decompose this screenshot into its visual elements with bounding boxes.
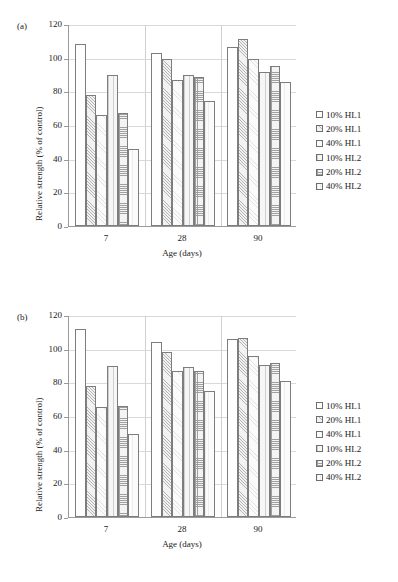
bar — [151, 53, 162, 226]
bar — [128, 149, 139, 226]
y-tick-label: 0 — [32, 222, 62, 231]
y-tick-label: 20 — [32, 479, 62, 488]
bar — [75, 44, 86, 226]
legend-item: 10% HL1 — [316, 109, 361, 120]
legend-swatch-icon — [316, 169, 323, 176]
legend-swatch-icon — [316, 460, 323, 467]
y-tick-mark — [64, 126, 68, 127]
y-tick-label: 60 — [32, 121, 62, 130]
y-tick-mark — [64, 484, 68, 485]
bar — [118, 406, 129, 517]
y-tick-mark — [64, 193, 68, 194]
legend-swatch-icon — [316, 402, 323, 409]
y-tick-mark — [64, 518, 68, 519]
legend-item: 20% HL1 — [316, 414, 361, 425]
bar — [194, 77, 205, 226]
legend-swatch-icon — [316, 474, 323, 481]
bar — [107, 75, 118, 227]
bar — [270, 363, 281, 517]
group-separator — [221, 316, 222, 517]
legend-item: 40% HL2 — [316, 472, 361, 483]
legend-item: 10% HL2 — [316, 152, 361, 163]
y-tick-label: 40 — [32, 155, 62, 164]
bar — [107, 366, 118, 517]
legend-swatch-icon — [316, 445, 323, 452]
bar — [248, 356, 259, 517]
y-tick-mark — [64, 383, 68, 384]
legend-a: 10% HL120% HL140% HL110% HL220% HL240% H… — [316, 109, 361, 195]
bar — [86, 386, 97, 517]
y-tick-mark — [64, 227, 68, 228]
bar — [96, 115, 107, 226]
x-axis-title: Age (days) — [52, 539, 312, 549]
bar — [172, 371, 183, 517]
plot-area-a — [68, 25, 296, 227]
bar — [280, 82, 291, 226]
y-tick-mark — [64, 25, 68, 26]
bar — [270, 66, 281, 226]
bar — [227, 47, 238, 226]
legend-swatch-icon — [316, 125, 323, 132]
bar — [162, 59, 173, 226]
bar — [280, 381, 291, 517]
panel-label-a: (a) — [17, 21, 27, 31]
legend-label: 40% HL1 — [326, 429, 361, 439]
legend-swatch-icon — [316, 183, 323, 190]
group-separator — [145, 25, 146, 226]
legend-label: 40% HL1 — [326, 138, 361, 148]
legend-item: 40% HL2 — [316, 181, 361, 192]
x-tick-label: 28 — [144, 233, 220, 243]
legend-item: 40% HL1 — [316, 138, 361, 149]
bar — [128, 434, 139, 517]
bar — [183, 75, 194, 227]
bar — [75, 329, 86, 517]
bar — [172, 80, 183, 226]
y-tick-label: 60 — [32, 412, 62, 421]
legend-label: 40% HL2 — [326, 181, 361, 191]
legend-label: 20% HL2 — [326, 167, 361, 177]
y-tick-mark — [64, 417, 68, 418]
bar — [204, 101, 215, 226]
bar — [162, 352, 173, 517]
legend-label: 10% HL2 — [326, 444, 361, 454]
chart-panel-b: (b) Relative strength (% of control) Age… — [0, 291, 398, 582]
bar — [118, 113, 129, 226]
y-tick-label: 120 — [32, 311, 62, 320]
gridline — [69, 59, 296, 60]
group-separator — [221, 25, 222, 226]
x-axis-title: Age (days) — [52, 248, 312, 258]
legend-b: 10% HL120% HL140% HL110% HL220% HL240% H… — [316, 400, 361, 486]
y-tick-label: 80 — [32, 378, 62, 387]
y-tick-mark — [64, 451, 68, 452]
legend-swatch-icon — [316, 140, 323, 147]
bar — [183, 367, 194, 517]
bar — [227, 339, 238, 517]
gridline — [69, 25, 296, 26]
panel-label-b: (b) — [17, 312, 28, 322]
legend-swatch-icon — [316, 431, 323, 438]
legend-swatch-icon — [316, 416, 323, 423]
x-tick-label: 7 — [68, 524, 144, 534]
y-tick-label: 20 — [32, 188, 62, 197]
group-separator — [145, 316, 146, 517]
bar — [259, 72, 270, 226]
gridline — [69, 350, 296, 351]
y-tick-mark — [64, 160, 68, 161]
chart-panel-a: (a) Relative strength (% of control) Age… — [0, 0, 398, 291]
y-tick-mark — [64, 350, 68, 351]
bar — [238, 39, 249, 226]
y-tick-label: 100 — [32, 54, 62, 63]
legend-label: 40% HL2 — [326, 472, 361, 482]
bar — [238, 338, 249, 517]
bar — [86, 95, 97, 226]
legend-item: 20% HL1 — [316, 123, 361, 134]
y-tick-mark — [64, 316, 68, 317]
legend-item: 40% HL1 — [316, 429, 361, 440]
y-tick-mark — [64, 59, 68, 60]
legend-swatch-icon — [316, 154, 323, 161]
y-tick-label: 80 — [32, 87, 62, 96]
x-tick-label: 28 — [144, 524, 220, 534]
legend-label: 10% HL1 — [326, 110, 361, 120]
legend-label: 10% HL2 — [326, 153, 361, 163]
bar — [259, 365, 270, 517]
